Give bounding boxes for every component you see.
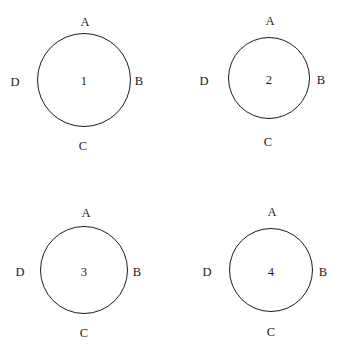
node-label-left-2: D bbox=[199, 75, 208, 88]
diagram-canvas: A B C D 1 A B C D 2 A B C D 3 A B C D 4 bbox=[0, 0, 351, 358]
node-label-bottom-3: C bbox=[80, 327, 89, 340]
node-label-top-1: A bbox=[80, 16, 89, 29]
node-label-right-3: B bbox=[133, 266, 142, 279]
node-label-bottom-1: C bbox=[79, 140, 88, 153]
circle-center-label-1: 1 bbox=[81, 75, 87, 88]
node-label-bottom-2: C bbox=[264, 136, 273, 149]
node-label-top-2: A bbox=[265, 15, 274, 28]
node-label-left-1: D bbox=[10, 76, 19, 89]
node-label-right-1: B bbox=[135, 75, 144, 88]
node-label-left-4: D bbox=[202, 266, 211, 279]
circle-center-label-4: 4 bbox=[268, 266, 274, 279]
node-label-right-4: B bbox=[319, 266, 328, 279]
node-label-right-2: B bbox=[317, 74, 326, 87]
node-label-bottom-4: C bbox=[267, 326, 276, 339]
node-label-top-3: A bbox=[81, 207, 90, 220]
node-label-left-3: D bbox=[15, 266, 24, 279]
circle-center-label-3: 3 bbox=[81, 266, 87, 279]
circle-center-label-2: 2 bbox=[266, 74, 272, 87]
node-label-top-4: A bbox=[267, 206, 276, 219]
